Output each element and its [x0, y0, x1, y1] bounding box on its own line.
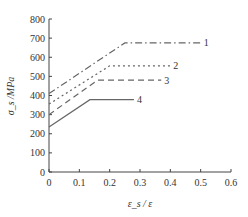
plot-area: 1234 [49, 37, 209, 127]
series-line-2 [49, 66, 170, 104]
y-tick-label: 500 [30, 71, 45, 82]
y-tick-label: 0 [40, 167, 45, 178]
y-tick-label: 200 [30, 128, 45, 139]
x-tick-label: 0.1 [73, 177, 86, 188]
x-tick-label: 0.6 [225, 177, 238, 188]
y-tick-label: 800 [30, 14, 45, 25]
x-tick-label: 0 [47, 177, 52, 188]
y-tick-label: 600 [30, 52, 45, 63]
series-label-4: 4 [137, 94, 142, 105]
series-label-1: 1 [204, 37, 209, 48]
y-tick-label: 300 [30, 109, 45, 120]
y-tick-label: 700 [30, 33, 45, 44]
y-tick-label: 400 [30, 90, 45, 101]
x-tick-label: 0.5 [194, 177, 207, 188]
series-label-2: 2 [173, 60, 178, 71]
x-tick-label: 0.4 [164, 177, 177, 188]
y-axis-label: σ_s /MPa [5, 77, 16, 116]
series-line-3 [49, 80, 161, 114]
series-line-4 [49, 100, 134, 127]
series-label-3: 3 [164, 75, 169, 86]
x-axis-label: ε_s / ε [128, 198, 153, 209]
chart: 00.10.20.30.40.50.6010020030040050060070… [0, 0, 248, 217]
x-tick-label: 0.2 [103, 177, 116, 188]
x-tick-label: 0.3 [134, 177, 147, 188]
y-tick-label: 100 [30, 147, 45, 158]
